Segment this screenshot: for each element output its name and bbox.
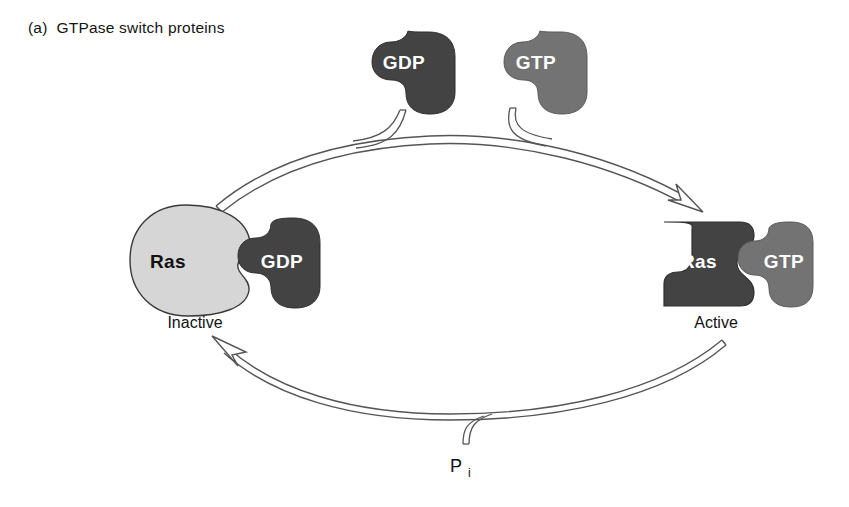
hydrolysis-arrow-tail-cap bbox=[722, 340, 726, 345]
hydrolysis-arrow-edge-inner bbox=[224, 345, 726, 420]
active-gtp-label: GTP bbox=[764, 251, 804, 272]
activation-arrow bbox=[216, 136, 703, 212]
gtp-shape-label: GTP bbox=[516, 52, 556, 73]
free-gdp-shape: GDP bbox=[372, 31, 455, 114]
gtpase-switch-diagram: GDP GTP Ras GDP Inactive Ras GTP Active bbox=[0, 0, 849, 507]
activation-arrow-edge-inner bbox=[222, 144, 688, 212]
hydrolysis-arrowhead bbox=[212, 336, 246, 366]
active-complex: Ras GTP Active bbox=[664, 222, 813, 331]
gdp-release-stem bbox=[353, 110, 406, 148]
pi-label: P bbox=[450, 456, 462, 476]
inactive-ras-body bbox=[130, 205, 250, 316]
pi-subscript: i bbox=[468, 466, 471, 480]
active-state-label: Active bbox=[694, 314, 738, 331]
activation-arrow-edge-outer bbox=[216, 136, 692, 206]
active-ras-label: Ras bbox=[681, 251, 717, 272]
hydrolysis-arrow bbox=[212, 336, 726, 420]
inactive-state-label: Inactive bbox=[167, 314, 222, 331]
inactive-gdp-label: GDP bbox=[261, 251, 303, 272]
inactive-ras-label: Ras bbox=[150, 251, 186, 272]
inactive-complex: Ras GDP Inactive bbox=[130, 205, 320, 331]
hydrolysis-arrow-edge-outer bbox=[228, 340, 722, 414]
free-gtp-shape: GTP bbox=[504, 31, 587, 114]
gdp-shape-label: GDP bbox=[383, 52, 425, 73]
pi-label-group: P i bbox=[450, 456, 471, 480]
